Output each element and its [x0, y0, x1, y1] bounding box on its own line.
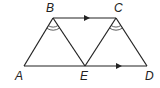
label-a: A: [14, 69, 23, 83]
parallel-arrow-ed-icon: [116, 63, 122, 69]
geometry-diagram: B C A E D: [0, 0, 160, 88]
segment-ab: [24, 18, 53, 66]
parallel-arrow-bc-icon: [84, 15, 90, 21]
label-b: B: [46, 1, 54, 15]
label-e: E: [80, 69, 89, 83]
label-d: D: [145, 69, 154, 83]
label-c: C: [114, 1, 123, 15]
angle-mark-c-icon: [110, 26, 123, 31]
